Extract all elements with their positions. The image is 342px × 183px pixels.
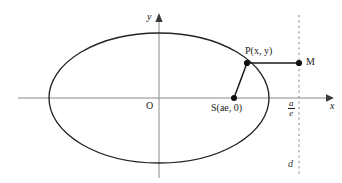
directrix-name-label: d <box>288 159 293 169</box>
origin-label: O <box>146 101 153 111</box>
point-s-label: S(ae, 0) <box>211 103 242 113</box>
y-axis-label: y <box>147 12 151 22</box>
segment-focus-to-point <box>234 63 247 98</box>
point-m-label: M <box>306 57 315 67</box>
point-m-marker <box>296 60 302 66</box>
diagram-canvas <box>0 0 342 183</box>
point-s-marker <box>231 95 237 101</box>
fraction-denominator: e <box>288 109 295 118</box>
x-axis-label: x <box>330 101 334 111</box>
y-axis-arrowhead <box>155 13 162 22</box>
directrix-distance-fraction: a e <box>288 99 295 119</box>
point-p-label: P(x, y) <box>245 46 272 56</box>
ellipse-focus-directrix-figure: y x O P(x, y) S(ae, 0) M a e d <box>0 0 342 183</box>
point-p-marker <box>244 60 250 66</box>
